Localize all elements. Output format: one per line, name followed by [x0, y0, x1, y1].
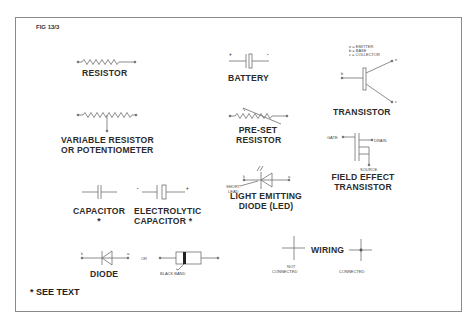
battery-label: BATTERY — [228, 73, 269, 84]
fet-gate-label: GATE — [327, 135, 338, 140]
led-terminal-a: a — [288, 174, 290, 179]
battery-symbol — [229, 54, 269, 68]
electrolytic-plus: + — [186, 186, 189, 192]
electrolytic-label-2: CAPACITOR * — [134, 216, 192, 227]
diode-label: DIODE — [90, 269, 118, 280]
transistor-terminal-e: e — [395, 57, 397, 62]
wiring-not-connected-2: CONNECTED — [272, 269, 297, 274]
electrolytic-minus: - — [137, 186, 139, 192]
capacitor-symbol — [82, 185, 117, 199]
wiring-connected-label: CONNECTED — [339, 269, 364, 274]
transistor-terminal-b: b — [341, 71, 343, 76]
wiring-title: WIRING — [311, 245, 344, 256]
battery-plus: + — [229, 52, 232, 58]
resistor-label: RESISTOR — [82, 68, 127, 79]
preset-resistor-symbol — [229, 108, 288, 124]
transistor-legend-collector: c = COLLECTOR — [349, 52, 380, 57]
transistor-label: TRANSISTOR — [333, 107, 391, 118]
diode-terminal-a: a — [127, 251, 129, 256]
diode-terminal-k: k — [81, 251, 83, 256]
led-terminal-k: k — [243, 174, 245, 179]
fet-symbol — [342, 133, 373, 166]
diode-black-band-label: BLACK BAND — [160, 271, 185, 276]
symbols-canvas — [0, 0, 474, 316]
capacitor-label-2: * — [70, 216, 128, 227]
electrolytic-capacitor-symbol — [142, 185, 185, 199]
wiring-not-connected-symbol — [282, 236, 305, 260]
transistor-terminal-c: c — [395, 99, 397, 104]
led-symbol — [240, 166, 290, 189]
diode-symbol — [81, 251, 129, 265]
transistor-symbol — [341, 60, 393, 103]
diode-physical-symbol — [159, 252, 219, 270]
wiring-connected-symbol — [349, 239, 372, 261]
led-label-2: DIODE (LED) — [228, 201, 304, 212]
battery-minus: - — [267, 52, 269, 58]
fet-label-2: TRANSISTOR — [328, 182, 398, 193]
fet-drain-label: DRAIN — [374, 138, 386, 143]
resistor-symbol — [77, 60, 136, 65]
see-text-footnote: * SEE TEXT — [30, 287, 80, 297]
variable-resistor-label-2: OR POTENTIOMETER — [61, 145, 153, 156]
preset-resistor-label-2: RESISTOR — [236, 135, 280, 146]
variable-resistor-symbol — [77, 113, 137, 132]
diode-or: OR — [141, 256, 147, 261]
